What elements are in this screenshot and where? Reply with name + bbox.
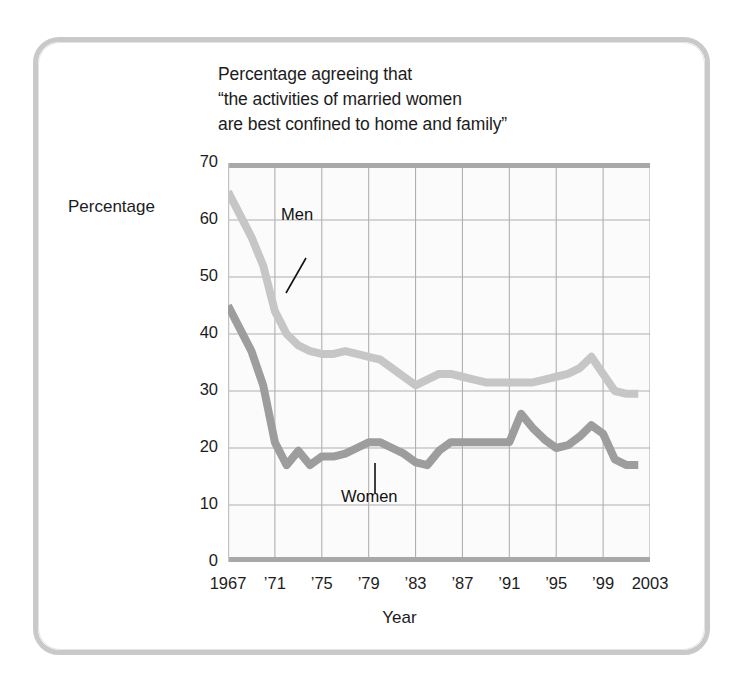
x-tick-label: ’95 [545,574,567,593]
series-label-women: Women [341,487,398,506]
x-axis-title: Year [0,608,747,628]
series-label-men: Men [281,205,313,224]
x-axis-title-text: Year [382,608,416,627]
y-tick-label: 50 [174,266,218,285]
x-tick-label: ’99 [592,574,614,593]
y-tick-label: 0 [174,551,218,570]
chart-title-line-2: “the activities of married women [218,87,638,112]
chart-title: Percentage agreeing that “the activities… [218,62,638,137]
x-tick-label: ’87 [451,574,473,593]
x-tick-label: ’79 [358,574,380,593]
x-tick-label: ’83 [405,574,427,593]
y-tick-label: 40 [174,323,218,342]
figure-root: Percentage agreeing that “the activities… [0,0,747,688]
y-tick-label: 70 [174,152,218,171]
y-tick-label: 30 [174,380,218,399]
x-tick-label: 1967 [210,574,247,593]
y-axis-title: Percentage [68,197,155,217]
x-tick-label: ’91 [498,574,520,593]
chart-title-line-1: Percentage agreeing that [218,62,638,87]
x-tick-label: ’71 [264,574,286,593]
x-tick-label: 2003 [632,574,669,593]
y-tick-label: 60 [174,209,218,228]
chart-title-line-3: are best confined to home and family” [218,112,638,137]
x-tick-label: ’75 [311,574,333,593]
y-tick-label: 20 [174,437,218,456]
y-tick-label: 10 [174,494,218,513]
